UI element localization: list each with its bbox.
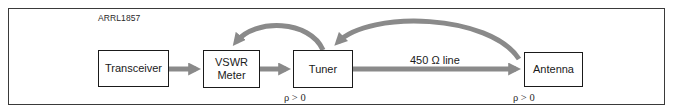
antenna-label: Antenna <box>533 63 574 76</box>
antenna-block: Antenna <box>524 52 583 87</box>
transceiver-block: Transceiver <box>98 50 169 87</box>
antenna-reflection-annotation: ρ > 0 <box>513 92 535 103</box>
feed-line-label: 450 Ω line <box>410 54 460 66</box>
transceiver-label: Transceiver <box>105 62 162 75</box>
tuner-label: Tuner <box>309 63 337 76</box>
vswr-meter-block: VSWR Meter <box>203 50 260 88</box>
tuner-block: Tuner <box>293 50 353 88</box>
tuner-reflection-annotation: ρ > 0 <box>284 92 306 103</box>
figure-id-label: ARRL1857 <box>98 13 140 23</box>
vswr-meter-label-line2: Meter <box>217 69 245 82</box>
vswr-meter-label-line1: VSWR <box>215 56 248 69</box>
